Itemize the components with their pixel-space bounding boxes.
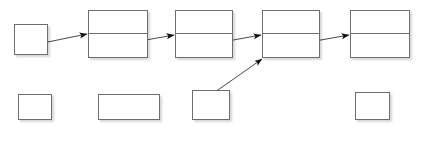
node-link-cell bbox=[263, 34, 319, 57]
node-data-cell bbox=[176, 11, 232, 34]
linked-list-diagram bbox=[0, 0, 429, 149]
node-link-cell bbox=[89, 34, 147, 57]
variable-value bbox=[19, 95, 51, 119]
pointer-box bbox=[14, 24, 48, 55]
list-node bbox=[350, 10, 410, 58]
node-data-cell bbox=[351, 11, 409, 34]
node-data-cell bbox=[263, 11, 319, 34]
node-link-cell bbox=[351, 34, 409, 57]
variable-value bbox=[356, 93, 389, 119]
list-node bbox=[88, 10, 148, 58]
variable-box bbox=[18, 94, 52, 120]
pointer-value bbox=[15, 25, 47, 54]
list-node bbox=[262, 10, 320, 58]
pointer-box bbox=[192, 90, 230, 120]
variable-box bbox=[98, 94, 160, 120]
variable-value bbox=[99, 95, 159, 119]
pointer-value bbox=[193, 91, 229, 119]
list-node bbox=[175, 10, 233, 58]
variable-box bbox=[355, 92, 390, 120]
node-data-cell bbox=[89, 11, 147, 34]
node-link-cell bbox=[176, 34, 232, 57]
